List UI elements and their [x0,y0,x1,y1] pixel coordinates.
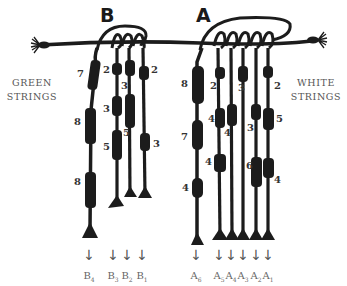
knot-count-a2-1: 3 [247,122,254,133]
green-strings-label: GREEN STRINGS [4,76,60,104]
knot-count-b4-1: 7 [77,68,84,79]
group-a-label: A [196,4,211,26]
macrame-string-diagram: GREEN STRINGS WHITE STRINGS B A 7 8 8 2 … [0,0,347,286]
endpoint-b3: B3 [106,270,120,283]
endpoint-b1: B1 [135,270,149,283]
strings-word: STRINGS [287,90,345,104]
knot-count-a6-3: 4 [182,182,189,193]
knot-count-b3-1: 2 [103,64,110,75]
knot-count-b3-3: 5 [103,141,110,152]
group-b-label: B [100,4,114,26]
endpoint-b4: B4 [82,270,96,283]
knot-count-a6-2: 7 [181,131,188,142]
arrow-down-icon: ↓ [237,248,249,262]
strings-word: STRINGS [4,90,60,104]
endpoint-a6: A6 [189,270,203,283]
endpoint-b2: B2 [120,270,134,283]
arrow-down-icon: ↓ [190,248,202,262]
knot-count-a1-1: 2 [274,80,281,91]
knot-count-a1-2: 5 [276,113,283,124]
arrow-down-icon: ↓ [107,248,119,262]
white-strings-label: WHITE STRINGS [287,76,345,104]
endpoint-a1: A1 [261,270,275,283]
group-b-loops [97,26,146,50]
knot-count-b2-1: 3 [121,80,128,91]
string-a6 [191,48,204,245]
left-fray-icon [31,37,50,53]
knot-count-b3-2: 3 [103,103,110,114]
arrow-down-icon: ↓ [225,248,237,262]
knot-count-b1-2: 3 [153,138,160,149]
arrow-down-icon: ↓ [136,248,148,262]
knot-count-b1-1: 2 [151,64,158,75]
string-b4 [82,48,101,238]
string-a3 [236,48,250,240]
string-a5 [212,48,228,240]
knot-count-b4-2: 8 [74,116,81,127]
knot-count-a3-1: 3 [238,82,245,93]
knot-count-a5-2: 4 [208,113,215,124]
string-b3 [108,48,124,208]
knot-count-a6-1: 8 [181,78,188,89]
string-b2 [124,48,137,197]
diagram-artwork [0,0,347,286]
knot-count-b2-2: 5 [123,127,130,138]
white-word: WHITE [287,76,345,90]
string-a1 [261,48,275,240]
string-a2 [249,48,263,240]
knot-count-a5-3: 4 [205,156,212,167]
arrow-down-icon: ↓ [262,248,274,262]
string-a4 [225,48,239,240]
arrow-down-icon: ↓ [121,248,133,262]
right-fray-icon [307,32,327,48]
string-b1 [138,48,152,198]
knot-count-a2-2: 6 [246,160,253,171]
arrow-down-icon: ↓ [213,248,225,262]
knot-count-a1-3: 4 [274,174,281,185]
knot-count-b4-3: 8 [74,176,81,187]
knot-count-a5-1: 2 [210,80,217,91]
knot-count-a4-1: 4 [224,127,231,138]
green-word: GREEN [4,76,60,90]
arrow-down-icon: ↓ [83,248,95,262]
endpoint-a3: A3 [236,270,250,283]
arrow-down-icon: ↓ [250,248,262,262]
